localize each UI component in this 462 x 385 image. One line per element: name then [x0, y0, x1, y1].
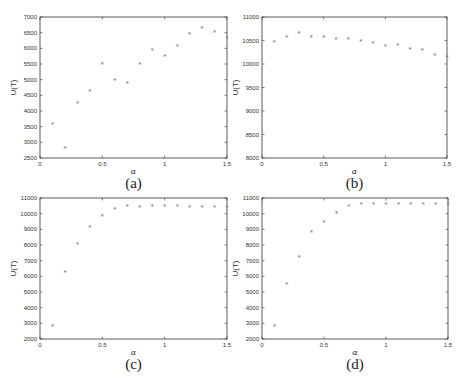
panel-c: 2000300040005000600070008000900010000110… — [9, 195, 232, 373]
y-tick-label: 4000 — [24, 108, 38, 114]
plot-frame — [262, 198, 448, 339]
y-tick-label: 10000 — [20, 211, 37, 217]
panel-a: 2500300035004000450050005500600065007000… — [9, 14, 232, 192]
data-point-star-icon: * — [200, 25, 204, 33]
x-tick-label: 0 — [260, 342, 264, 348]
figure-canvas: 2500300035004000450050005500600065007000… — [0, 0, 462, 385]
data-point-star-icon: * — [138, 61, 142, 69]
data-point-star-icon: * — [384, 201, 388, 209]
data-point-star-icon: * — [76, 241, 80, 249]
panel-label: (d) — [346, 356, 364, 373]
y-axis-label: U(T) — [9, 260, 18, 276]
data-point-star-icon: * — [225, 204, 229, 212]
x-tick-label: 1.5 — [223, 161, 232, 167]
data-point-star-icon: * — [297, 254, 301, 262]
plot-frame — [40, 17, 227, 158]
data-point-star-icon: * — [101, 213, 105, 221]
data-point-star-icon: * — [88, 88, 92, 96]
data-point-star-icon: * — [126, 203, 130, 211]
y-tick-label: 2000 — [246, 336, 260, 342]
data-point-star-icon: * — [310, 229, 314, 237]
data-point-star-icon: * — [322, 34, 326, 42]
y-tick-label: 6500 — [24, 30, 38, 36]
data-point-star-icon: * — [409, 201, 413, 209]
data-point-star-icon: * — [101, 61, 105, 69]
y-tick-label: 8000 — [246, 155, 260, 161]
y-tick-label: 8000 — [246, 242, 260, 248]
y-tick-label: 9000 — [24, 226, 38, 232]
data-point-star-icon: * — [335, 210, 339, 218]
y-tick-label: 11000 — [243, 195, 260, 201]
y-axis-label: U(T) — [231, 260, 240, 276]
data-point-star-icon: * — [113, 77, 117, 85]
data-point-star-icon: * — [273, 323, 277, 331]
x-tick-label: 0 — [38, 161, 42, 167]
data-point-star-icon: * — [359, 38, 363, 46]
x-tick-label: 1.5 — [444, 342, 453, 348]
data-point-star-icon: * — [76, 100, 80, 108]
data-point-star-icon: * — [445, 54, 449, 62]
x-tick-label: 1 — [384, 342, 388, 348]
y-tick-label: 8500 — [246, 132, 260, 138]
data-point-star-icon: * — [188, 204, 192, 212]
data-point-star-icon: * — [421, 201, 425, 209]
y-tick-label: 9000 — [246, 226, 260, 232]
data-point-star-icon: * — [347, 36, 351, 44]
y-tick-label: 5000 — [24, 289, 38, 295]
data-point-star-icon: * — [175, 43, 179, 51]
x-tick-label: 1 — [163, 161, 167, 167]
y-tick-label: 6000 — [24, 45, 38, 51]
y-tick-label: 10000 — [242, 61, 259, 67]
data-point-star-icon: * — [126, 80, 130, 88]
x-tick-label: 1 — [384, 161, 388, 167]
y-tick-label: 9500 — [246, 85, 260, 91]
y-tick-label: 7000 — [24, 14, 38, 20]
data-point-star-icon: * — [384, 43, 388, 51]
y-tick-label: 8000 — [24, 242, 38, 248]
x-tick-label: 0 — [38, 342, 42, 348]
y-tick-label: 5000 — [246, 289, 260, 295]
data-point-star-icon: * — [371, 40, 375, 48]
data-point-star-icon: * — [433, 52, 437, 60]
x-tick-label: 0.5 — [319, 161, 328, 167]
plot-frame — [40, 198, 227, 339]
data-point-star-icon: * — [297, 30, 301, 38]
data-point-star-icon: * — [225, 35, 229, 43]
data-point-star-icon: * — [63, 269, 67, 277]
data-point-star-icon: * — [150, 47, 154, 55]
data-point-star-icon: * — [188, 31, 192, 39]
data-point-star-icon: * — [51, 323, 55, 331]
y-tick-label: 6000 — [246, 273, 260, 279]
y-tick-label: 10000 — [242, 211, 259, 217]
y-tick-label: 7000 — [24, 258, 38, 264]
data-point-star-icon: * — [213, 204, 217, 212]
data-point-star-icon: * — [446, 201, 450, 209]
panel-label: (a) — [125, 175, 142, 192]
y-tick-label: 3000 — [246, 320, 260, 326]
data-point-star-icon: * — [421, 47, 425, 55]
data-point-star-icon: * — [150, 203, 154, 211]
y-axis-label: U(T) — [231, 79, 240, 95]
y-axis-label: U(T) — [9, 79, 18, 95]
data-point-star-icon: * — [372, 201, 376, 209]
y-tick-label: 10500 — [242, 38, 259, 44]
data-point-star-icon: * — [397, 201, 401, 209]
panel-d: 2000300040005000600070008000900010000110… — [231, 195, 453, 373]
y-tick-label: 5000 — [24, 77, 38, 83]
data-point-star-icon: * — [334, 36, 338, 44]
x-tick-label: 1.5 — [223, 342, 232, 348]
y-tick-label: 4000 — [246, 305, 260, 311]
x-tick-label: 0.5 — [320, 342, 329, 348]
data-point-star-icon: * — [408, 46, 412, 54]
data-point-star-icon: * — [347, 203, 351, 211]
data-point-star-icon: * — [213, 29, 217, 37]
plot-frame — [262, 17, 447, 158]
data-point-star-icon: * — [163, 53, 167, 61]
data-point-star-icon: * — [200, 204, 204, 212]
y-tick-label: 4000 — [24, 305, 38, 311]
data-point-star-icon: * — [51, 121, 55, 129]
data-point-star-icon: * — [285, 34, 289, 42]
data-point-star-icon: * — [63, 145, 67, 153]
data-point-star-icon: * — [175, 203, 179, 211]
y-tick-label: 7000 — [246, 258, 260, 264]
